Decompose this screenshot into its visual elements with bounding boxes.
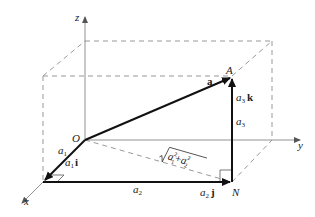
a2-length-label: a2: [133, 183, 143, 197]
x-axis-label: x: [23, 195, 29, 207]
z-axis-label: z: [74, 11, 80, 23]
point-n-label: N: [231, 186, 240, 198]
a3-length-label: a3: [236, 115, 246, 129]
a2j-label: a2j: [200, 186, 215, 200]
vector-a: [85, 78, 230, 140]
y-axis-label: y: [297, 139, 303, 151]
right-angle-markers: [52, 170, 232, 182]
a1i-label: a1i: [65, 156, 78, 170]
diagonal-length-label: a21+a22: [158, 145, 207, 173]
vector-a-label: a: [207, 75, 213, 87]
a3k-label: a3k: [236, 91, 254, 105]
origin-label: O: [72, 132, 80, 144]
vector-diagram: z y x O A N a a3k a3 a1 a1i a2 a2j a21+a…: [0, 0, 315, 217]
point-a-label: A: [225, 64, 233, 76]
